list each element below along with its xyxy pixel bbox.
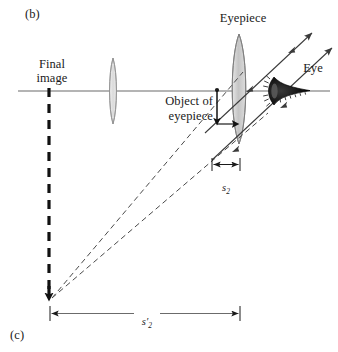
- ray-direction-marker-c: [232, 145, 239, 152]
- s2p-subscript: 2: [148, 321, 152, 330]
- eyepiece-lens: [232, 34, 246, 144]
- object-of-eyepiece-label: Object of eyepiece: [151, 94, 213, 123]
- ray-direction-marker-d: [280, 101, 287, 108]
- diagram-canvas: [0, 0, 338, 352]
- real-ray-upper: [205, 33, 312, 133]
- eye-illustration: [263, 76, 310, 106]
- objective-lens: [110, 58, 117, 124]
- virtual-ray-lower: [52, 113, 268, 298]
- final-image-label: Final image: [24, 57, 80, 85]
- eye-pupil: [271, 83, 277, 98]
- ray-direction-marker-a: [246, 85, 253, 92]
- panel-label-b: (b): [25, 7, 40, 21]
- eyepiece-label: Eyepiece: [206, 11, 280, 25]
- real-ray-bundle: [205, 33, 332, 160]
- optics-figure-panel-b: (b) (c) Final image Eyepiece Eye Object …: [0, 0, 338, 352]
- s2-subscript: 2: [226, 187, 230, 196]
- panel-label-c: (c): [10, 328, 24, 342]
- eye-label: Eye: [296, 61, 330, 75]
- s2-prime-dimension-label: s′2: [134, 304, 160, 330]
- s2-dimension-label: s2: [214, 170, 238, 196]
- ray-direction-marker-b: [288, 46, 295, 53]
